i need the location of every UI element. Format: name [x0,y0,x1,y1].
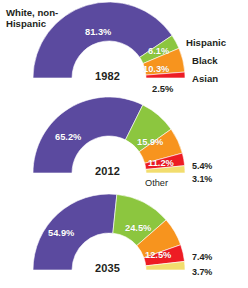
half-donut-chart-1982: White, non- Hispanic Hispanic Black Asia… [0,0,248,95]
value-label-2035-other: 3.7% [192,267,212,277]
value-label-2035-asian: 7.4% [192,252,212,262]
value-label-2012-hispanic: 15.9% [137,137,163,147]
category-label-asian: Asian [192,74,218,85]
donut-segment-2012-white-non-hispanic [33,97,143,173]
infographic-root: White, non- Hispanic Hispanic Black Asia… [0,0,248,288]
value-label-1982-hispanic: 6.1% [148,46,169,56]
category-label-hispanic: Hispanic [186,38,226,49]
value-label-2012-other: 3.1% [192,174,212,184]
value-label-1982-asian: 2.5% [152,84,173,95]
value-label-2035-black: 12.5% [145,250,171,260]
value-label-2012-asian: 5.4% [192,161,212,171]
half-donut-chart-2035: 2035 54.9% 24.5% 12.5% 7.4% 3.7% [0,190,248,288]
white-label-line2: Hispanic [6,19,58,30]
category-label-black: Black [192,56,218,67]
value-label-1982-white: 81.3% [85,27,111,37]
value-label-2012-white: 65.2% [55,132,81,142]
donut-segment-2035-white-non-hispanic [33,194,117,270]
value-label-2012-black: 11.2% [148,158,174,168]
value-label-2035-white: 54.9% [48,228,74,238]
category-label-other: Other [145,178,168,188]
half-donut-chart-2012: 2012 65.2% 15.9% 11.2% 5.4% 3.1% Other [0,95,248,190]
value-label-1982-black: 10.3% [143,64,169,74]
category-label-white-non-hispanic: White, non- Hispanic [6,8,58,29]
value-label-2035-hispanic: 24.5% [125,223,151,233]
year-label-2035: 2035 [95,262,120,274]
year-label-1982: 1982 [95,70,120,82]
year-label-2012: 2012 [95,165,120,177]
